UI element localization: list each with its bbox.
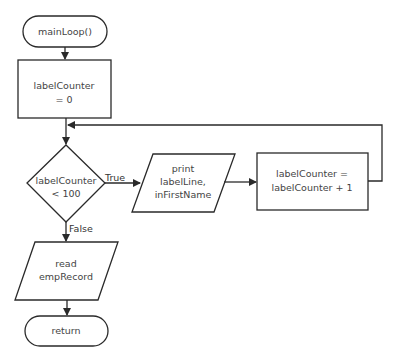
end-terminal: return [25, 316, 108, 346]
false-label: False [69, 223, 93, 234]
end-terminal-label: return [51, 325, 80, 336]
decision-line-2: < 100 [51, 188, 80, 199]
read-io: read empRecord [15, 242, 118, 300]
init-process: labelCounter = 0 [18, 60, 111, 118]
print-io-line-1: print [172, 163, 195, 174]
increment-line-1: labelCounter = [276, 168, 348, 179]
init-process-line-2: = 0 [55, 94, 72, 105]
decision-line-1: labelCounter [36, 175, 97, 186]
start-terminal-label: mainLoop() [38, 26, 92, 37]
print-io-line-3: inFirstName [155, 189, 212, 200]
decision-diamond: labelCounter < 100 [27, 145, 105, 222]
print-io: print labelLine, inFirstName [132, 154, 235, 212]
flowchart: mainLoop() labelCounter = 0 labelCounter… [0, 0, 393, 361]
increment-process: labelCounter = labelCounter + 1 [257, 153, 368, 210]
true-label: True [104, 172, 125, 183]
print-io-line-2: labelLine, [160, 176, 206, 187]
init-process-line-1: labelCounter [34, 80, 95, 91]
increment-line-2: labelCounter + 1 [272, 182, 353, 193]
read-io-line-2: empRecord [39, 271, 93, 282]
read-io-line-1: read [55, 258, 76, 269]
start-terminal: mainLoop() [23, 16, 107, 47]
